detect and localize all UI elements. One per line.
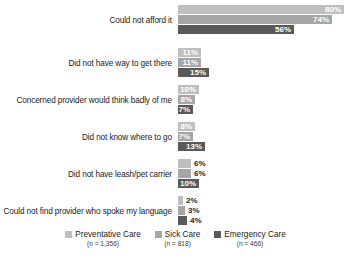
bar-value-label: 10%	[180, 179, 199, 188]
bar-track: 56%	[178, 25, 294, 34]
bar-track: 6%	[178, 169, 206, 178]
bar-track: 3%	[178, 206, 200, 215]
bar-group: 2% 3% 4%	[178, 195, 351, 229]
chart-category-group: Could not find provider who spoke my lan…	[0, 195, 351, 229]
bar-emergency[interactable]: 13%	[178, 142, 205, 151]
bar-group: 10% 8% 7%	[178, 84, 351, 118]
bar-track: 10%	[178, 85, 199, 94]
bar-preventative[interactable]	[178, 159, 191, 168]
bar-sick[interactable]: 7%	[178, 132, 193, 141]
bar-emergency[interactable]	[178, 216, 187, 225]
chart-category-group: Could not afford it 80% 74% 56%	[0, 4, 351, 38]
legend-top: Sick Care	[155, 230, 201, 239]
legend-top: Emergency Care	[214, 230, 285, 239]
bar-preventative[interactable]: 11%	[178, 48, 201, 57]
legend-sample-size: (n = 466)	[237, 240, 264, 247]
chart-category-group: Did not have way to get there 11% 11% 15…	[0, 47, 351, 81]
bar-value-label: 11%	[182, 48, 201, 57]
plot-area: Could not afford it 80% 74% 56%	[0, 0, 351, 228]
category-label: Did not know where to go	[0, 133, 178, 143]
bar-value-label: 15%	[190, 68, 209, 77]
bar-value-label: 11%	[182, 58, 201, 67]
bar-value-label: 74%	[313, 15, 332, 24]
bar-track: 2%	[178, 196, 198, 205]
bar-preventative[interactable]	[178, 196, 183, 205]
bar-value-label: 56%	[275, 25, 294, 34]
bar-track: 7%	[178, 132, 193, 141]
category-label: Did not have leash/pet carrier	[0, 170, 178, 180]
bar-group: 11% 11% 15%	[178, 47, 351, 81]
bar-value-label: 10%	[180, 85, 199, 94]
category-label: Could not afford it	[0, 16, 178, 26]
bar-value-label: 2%	[183, 196, 198, 205]
bar-track: 8%	[178, 95, 195, 104]
legend-item-sick-care[interactable]: Sick Care (n = 818)	[155, 230, 201, 247]
chart-category-group: Did not have leash/pet carrier 6% 6% 10%	[0, 158, 351, 192]
bar-group: 6% 6% 10%	[178, 158, 351, 192]
bar-track: 8%	[178, 122, 195, 131]
bar-track: 11%	[178, 48, 201, 57]
bar-emergency[interactable]: 56%	[178, 25, 294, 34]
legend-item-preventative-care[interactable]: Preventative Care (n = 1,356)	[65, 230, 141, 247]
bar-value-label: 7%	[178, 132, 193, 141]
legend-label: Preventative Care	[75, 230, 141, 239]
legend-swatch-icon	[214, 231, 221, 238]
legend-top: Preventative Care	[65, 230, 141, 239]
bar-track: 80%	[178, 5, 344, 14]
category-label: Did not have way to get there	[0, 59, 178, 69]
bar-preventative[interactable]: 10%	[178, 85, 199, 94]
bar-sick[interactable]: 8%	[178, 95, 195, 104]
bar-emergency[interactable]: 10%	[178, 179, 199, 188]
bar-preventative[interactable]: 8%	[178, 122, 195, 131]
bar-track: 7%	[178, 105, 193, 114]
category-label: Concerned provider would think badly of …	[0, 96, 178, 106]
bar-track: 13%	[178, 142, 205, 151]
legend-sample-size: (n = 1,356)	[87, 240, 119, 247]
legend-sample-size: (n = 818)	[164, 240, 191, 247]
category-label: Could not find provider who spoke my lan…	[0, 207, 178, 217]
bar-value-label: 6%	[191, 169, 206, 178]
bar-track: 11%	[178, 58, 201, 67]
bar-emergency[interactable]: 15%	[178, 68, 209, 77]
legend-label: Sick Care	[165, 230, 201, 239]
chart-legend: Preventative Care (n = 1,356) Sick Care …	[0, 230, 351, 247]
legend-label: Emergency Care	[224, 230, 285, 239]
bar-sick[interactable]	[178, 169, 191, 178]
bar-value-label: 6%	[191, 159, 206, 168]
bar-value-label: 4%	[187, 216, 202, 225]
bar-track: 6%	[178, 159, 206, 168]
bar-track: 74%	[178, 15, 332, 24]
bar-sick[interactable]	[178, 206, 185, 215]
bar-sick[interactable]: 11%	[178, 58, 201, 67]
bar-value-label: 13%	[186, 142, 205, 151]
bar-track: 15%	[178, 68, 209, 77]
legend-swatch-icon	[155, 231, 162, 238]
legend-swatch-icon	[65, 231, 72, 238]
bar-track: 4%	[178, 216, 202, 225]
bar-sick[interactable]: 74%	[178, 15, 332, 24]
bar-value-label: 3%	[185, 206, 200, 215]
bar-value-label: 8%	[180, 122, 195, 131]
bar-preventative[interactable]: 80%	[178, 5, 344, 14]
legend-item-emergency-care[interactable]: Emergency Care (n = 466)	[214, 230, 285, 247]
grouped-bar-chart: Could not afford it 80% 74% 56%	[0, 0, 351, 266]
bar-track: 10%	[178, 179, 199, 188]
bar-emergency[interactable]: 7%	[178, 105, 193, 114]
chart-category-group: Concerned provider would think badly of …	[0, 84, 351, 118]
chart-category-group: Did not know where to go 8% 7% 13%	[0, 121, 351, 155]
bar-group: 80% 74% 56%	[178, 4, 351, 38]
bar-group: 8% 7% 13%	[178, 121, 351, 155]
bar-value-label: 8%	[180, 95, 195, 104]
bar-value-label: 7%	[178, 105, 193, 114]
bar-value-label: 80%	[325, 5, 344, 14]
